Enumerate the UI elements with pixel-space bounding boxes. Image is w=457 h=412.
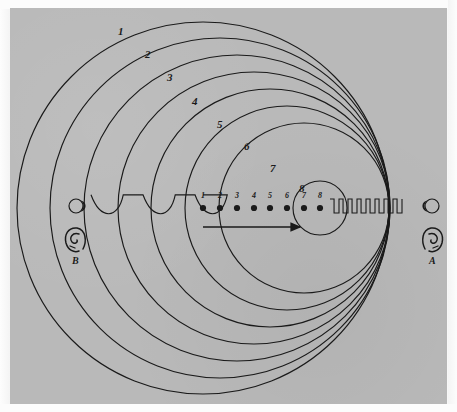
source-position-dot-5 [267,205,273,211]
source-position-label-3: 3 [235,192,239,200]
observer-eye-icon-A [425,199,439,213]
source-position-dot-8 [317,205,323,211]
source-position-label-4: 4 [252,192,256,200]
observer-label-B: B [72,256,79,266]
observer-ear-lobe-icon-A [433,246,438,248]
source-position-label-6: 6 [285,192,289,200]
figure-canvas [0,0,457,412]
wavefront-label-3: 3 [167,72,173,83]
source-position-label-5: 5 [268,192,272,200]
observer-ear-inner-icon-B [71,234,79,244]
source-position-label-2: 2 [218,192,222,200]
observer-label-A: A [429,256,436,266]
source-position-dot-1 [200,205,206,211]
wavefront-label-1: 1 [118,26,124,37]
wavefront-label-6: 6 [244,141,250,152]
source-position-dot-6 [284,205,290,211]
source-position-label-7: 7 [302,192,306,200]
right-compressed-wave [330,199,402,213]
left-stretched-wave [91,195,227,214]
source-position-dot-3 [234,205,240,211]
source-position-label-1: 1 [201,192,205,200]
source-position-dot-7 [301,205,307,211]
right-wave-group [330,199,402,213]
doppler-figure: 1234567812345678BA [0,0,457,412]
source-position-dot-4 [251,205,257,211]
wavefront-label-7: 7 [270,163,276,174]
source-position-dot-2 [217,205,223,211]
left-wave-group [91,195,227,214]
source-dot-group [200,205,323,211]
source-position-label-8: 8 [318,192,322,200]
observer-ear-inner-icon-A [429,234,437,244]
observer-ear-lobe-icon-B [70,246,75,248]
wavefront-label-4: 4 [192,96,198,107]
wavefront-label-2: 2 [145,49,151,60]
observer-eye-icon-B [69,199,83,213]
wavefront-label-5: 5 [217,119,223,130]
